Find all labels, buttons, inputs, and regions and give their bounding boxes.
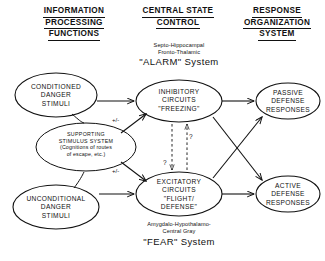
node-unconditional-danger-stimuli (13, 185, 99, 229)
arrow-supporting-to-excitatory (121, 162, 146, 181)
annotation-sign-upper: +/- (112, 117, 119, 123)
node-conditioned-danger-stimuli (15, 73, 97, 117)
annotation-sign-lower: +/- (112, 168, 119, 174)
annotation-fear-system-name: "FEAR" System (122, 236, 236, 247)
arrow-unconditional-to-supporting (74, 172, 84, 188)
node-inhibitory-circuits (136, 80, 222, 122)
annotation-alarm-anatomy: Septo-Hippocampal Fronto-Thalamic (126, 42, 232, 56)
node-excitatory-circuits (136, 172, 222, 216)
node-passive-defense-responses (256, 83, 320, 119)
annotation-fear-anatomy: Amygdalo-Hypothalamo- Central Gray (122, 221, 236, 235)
annotation-question-upper: ? (189, 133, 193, 140)
arrow-conditioned-to-supporting (72, 114, 84, 123)
annotation-alarm-system-name: "ALARM" System (126, 56, 232, 67)
annotation-question-lower: ? (163, 159, 167, 166)
node-active-defense-responses (256, 176, 320, 212)
label-supporting-stimulus-system: SUPPORTING STIMULUS SYSTEM (Cognitions o… (41, 131, 131, 157)
fear-alarm-system-diagram: INFORMATION PROCESSING FUNCTIONS CENTRAL… (0, 0, 325, 261)
